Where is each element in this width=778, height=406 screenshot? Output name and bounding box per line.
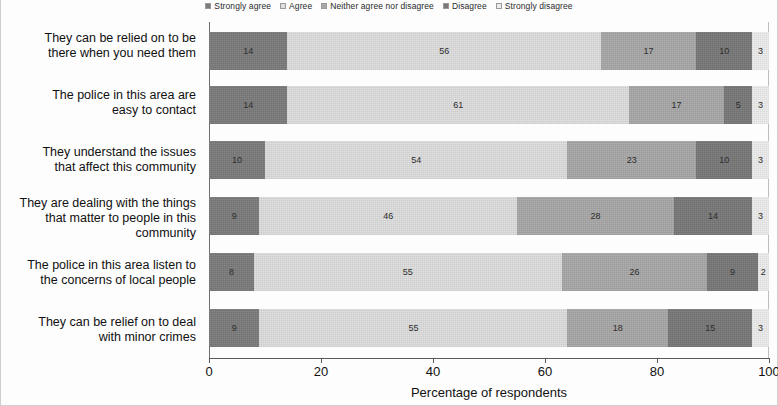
bar-segment[interactable]: 54 (265, 141, 567, 179)
bar-segment[interactable]: 9 (209, 309, 259, 347)
bar-segment[interactable]: 3 (752, 86, 769, 124)
x-axis-tick-mark (209, 358, 210, 363)
category-label-line: community (6, 226, 196, 241)
legend-item[interactable]: Neither agree nor disagree (321, 2, 434, 11)
bar-segment-value: 3 (758, 212, 763, 221)
category-label-line: that matter to people in this (6, 211, 196, 226)
x-axis-title: Percentage of respondents (209, 385, 769, 400)
bar-segment[interactable]: 18 (567, 309, 668, 347)
bar-segment-value: 28 (590, 212, 600, 221)
bar-segment-value: 23 (627, 156, 637, 165)
bar-segment[interactable]: 8 (209, 253, 254, 291)
bar-segment[interactable]: 15 (668, 309, 752, 347)
stacked-bar-row[interactable]: 14611753 (209, 86, 769, 124)
bar-segment[interactable]: 5 (724, 86, 752, 124)
x-axis-tick-label: 100 (749, 364, 778, 379)
bar-segment[interactable]: 26 (562, 253, 708, 291)
x-axis-tick-mark (433, 358, 434, 363)
category-label: They can be relief on to dealwith minor … (6, 315, 196, 345)
bar-segment[interactable]: 61 (287, 86, 629, 124)
bar-segment-value: 55 (403, 268, 413, 277)
bar-segment-value: 5 (736, 101, 741, 110)
category-label-line: with minor crimes (6, 330, 196, 345)
bar-segment[interactable]: 9 (209, 197, 259, 235)
category-label-line: The police in this area listen to (6, 258, 196, 273)
plot-area: 1456171031461175310542310394628143855269… (209, 22, 769, 358)
bar-segment[interactable]: 56 (287, 32, 601, 70)
bar-segment[interactable]: 28 (517, 197, 674, 235)
bar-segment[interactable]: 3 (752, 141, 769, 179)
stacked-bar-chart: Strongly agreeAgreeNeither agree nor dis… (0, 0, 778, 406)
stacked-bar-row[interactable]: 95518153 (209, 309, 769, 347)
bar-segment[interactable]: 14 (674, 197, 752, 235)
category-label-line: They understand the issues (6, 145, 196, 160)
bar-segment[interactable]: 14 (209, 86, 287, 124)
bar-segment-value: 61 (453, 101, 463, 110)
bar-segment[interactable]: 55 (259, 309, 567, 347)
x-axis-line (209, 358, 770, 359)
x-axis-tick-mark (769, 358, 770, 363)
x-axis-tick-mark (657, 358, 658, 363)
page-edge-left (0, 0, 1, 406)
bar-segment[interactable]: 3 (752, 197, 769, 235)
x-axis-tick-label: 20 (301, 364, 341, 379)
category-label: They can be relied on to bethere when yo… (6, 31, 196, 61)
stacked-bar-row[interactable]: 94628143 (209, 197, 769, 235)
stacked-bar-row[interactable]: 145617103 (209, 32, 769, 70)
bar-segment-value: 14 (708, 212, 718, 221)
bar-segment[interactable]: 3 (752, 309, 769, 347)
bar-segment[interactable]: 14 (209, 32, 287, 70)
legend-swatch-icon (443, 3, 449, 9)
bar-segment-value: 3 (758, 324, 763, 333)
category-label: The police in this area listen tothe con… (6, 258, 196, 288)
bar-segment[interactable]: 55 (254, 253, 562, 291)
legend-item[interactable]: Agree (280, 2, 312, 11)
bar-segment[interactable]: 2 (758, 253, 769, 291)
x-axis-tick-label: 60 (525, 364, 565, 379)
category-label-line: easy to contact (6, 103, 196, 118)
category-label-line: that affect this community (6, 160, 196, 175)
category-label-line: the concerns of local people (6, 273, 196, 288)
stacked-bar-row[interactable]: 105423103 (209, 141, 769, 179)
category-label-line: They can be relief on to deal (6, 315, 196, 330)
bar-segment-value: 3 (758, 156, 763, 165)
category-label-line: They are dealing with the things (6, 196, 196, 211)
bar-segment-value: 9 (730, 268, 735, 277)
bar-segment-value: 8 (229, 268, 234, 277)
bar-segment[interactable]: 10 (696, 32, 752, 70)
bar-segment[interactable]: 46 (259, 197, 517, 235)
bar-segment-value: 55 (408, 324, 418, 333)
x-axis-tick-mark (321, 358, 322, 363)
bar-segment-value: 3 (758, 101, 763, 110)
legend-item-label: Neither agree nor disagree (330, 2, 434, 11)
chart-legend: Strongly agreeAgreeNeither agree nor dis… (0, 2, 778, 11)
stacked-bar-row[interactable]: 8552692 (209, 253, 769, 291)
legend-item[interactable]: Strongly disagree (496, 2, 573, 11)
category-label: They are dealing with the thingsthat mat… (6, 196, 196, 241)
bar-segment-value: 17 (644, 47, 654, 56)
plot-frame (209, 22, 769, 358)
category-label-line: there when you need them (6, 46, 196, 61)
legend-item-label: Agree (289, 2, 312, 11)
bar-segment-value: 15 (705, 324, 715, 333)
legend-item-label: Strongly disagree (505, 2, 573, 11)
bar-segment-value: 10 (719, 156, 729, 165)
bar-segment[interactable]: 3 (752, 32, 769, 70)
bar-segment[interactable]: 17 (601, 32, 696, 70)
legend-item[interactable]: Strongly agree (205, 2, 271, 11)
bar-segment[interactable]: 10 (696, 141, 752, 179)
bar-segment[interactable]: 17 (629, 86, 724, 124)
bar-segment[interactable]: 9 (707, 253, 757, 291)
bar-segment-value: 3 (758, 47, 763, 56)
bar-segment[interactable]: 23 (567, 141, 696, 179)
category-label: The police in this area areeasy to conta… (6, 88, 196, 118)
x-axis-tick-label: 0 (189, 364, 229, 379)
bar-segment-value: 9 (232, 212, 237, 221)
bar-segment[interactable]: 10 (209, 141, 265, 179)
bar-segment-value: 9 (232, 324, 237, 333)
legend-swatch-icon (321, 3, 327, 9)
x-axis-tick-mark (545, 358, 546, 363)
bar-segment-value: 56 (439, 47, 449, 56)
legend-item[interactable]: Disagree (443, 2, 487, 11)
category-label-line: They can be relied on to be (6, 31, 196, 46)
